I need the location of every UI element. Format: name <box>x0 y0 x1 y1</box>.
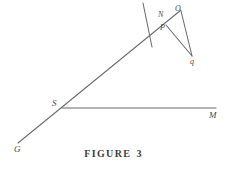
figure-drawing <box>0 0 227 169</box>
ray-g-to-o <box>18 10 181 143</box>
figure-caption-word: FIGURE <box>84 148 131 159</box>
point-label-n: N <box>158 11 163 19</box>
figure-container: N O P q S M G FIGURE3 <box>0 0 227 169</box>
diagram-lines <box>18 3 216 143</box>
point-label-p: P <box>160 24 165 32</box>
point-label-s: S <box>52 99 57 108</box>
figure-caption: FIGURE3 <box>0 148 227 159</box>
point-label-o: O <box>175 5 181 13</box>
figure-caption-number: 3 <box>136 148 142 159</box>
point-label-m: M <box>209 111 217 120</box>
point-label-q: q <box>190 58 194 66</box>
